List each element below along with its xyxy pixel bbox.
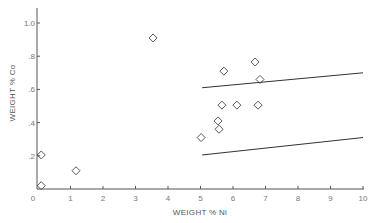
diamond-marker (233, 101, 241, 109)
x-tick-label: 10 (359, 194, 368, 203)
x-tick-label: 7 (263, 194, 268, 203)
y-tick-label: .8 (28, 52, 35, 61)
x-tick-label: 6 (231, 194, 236, 203)
scatter-chart: 012345678910 .2.4.6.81.0 WEIGHT % Ni WEI… (0, 0, 374, 223)
x-tick-label: 1 (68, 194, 73, 203)
diamond-marker (218, 101, 226, 109)
diamond-marker (72, 167, 80, 175)
diamond-marker (37, 182, 45, 190)
diamond-marker (220, 67, 228, 75)
x-tick-label: 0 (31, 194, 36, 203)
y-tick-label: .4 (28, 119, 35, 128)
diamond-marker (149, 34, 157, 42)
reference-lines (202, 73, 363, 155)
diamond-marker (214, 117, 222, 125)
x-tick-label: 2 (101, 194, 106, 203)
diamond-marker (215, 125, 223, 133)
x-tick-label: 5 (198, 194, 203, 203)
upper-bound-line (202, 73, 363, 88)
axes (37, 8, 364, 189)
x-tick-label: 3 (133, 194, 138, 203)
data-points (37, 34, 264, 190)
x-tick-label: 8 (296, 194, 301, 203)
diamond-marker (197, 134, 205, 142)
y-tick-label: .6 (28, 85, 35, 94)
diamond-marker (254, 101, 262, 109)
x-tick-label: 4 (166, 194, 171, 203)
x-tick-label: 9 (328, 194, 333, 203)
y-axis-title: WEIGHT % Co (8, 64, 17, 121)
y-ticks: .2.4.6.81.0 (24, 19, 40, 161)
y-tick-label: .2 (28, 152, 35, 161)
diamond-marker (37, 151, 45, 159)
x-axis-title: WEIGHT % Ni (173, 208, 227, 217)
y-tick-label: 1.0 (24, 19, 36, 28)
diamond-marker (251, 58, 259, 66)
lower-bound-line (202, 138, 363, 155)
